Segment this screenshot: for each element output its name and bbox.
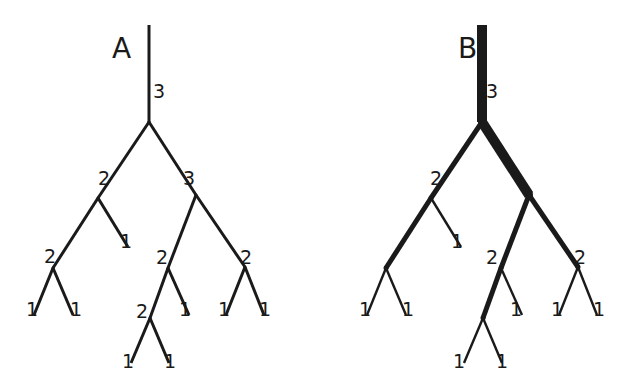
edge-label: 1 [359, 298, 371, 320]
tree-edge [529, 195, 578, 267]
edge-label: 1 [402, 298, 414, 320]
edge-label: 1 [593, 298, 605, 320]
tree-edge [196, 195, 245, 267]
tree-title: A [112, 32, 131, 65]
edge-label: 2 [136, 300, 148, 322]
tree-edge [386, 198, 431, 268]
tree-edge [150, 268, 168, 318]
edge-label: 2 [574, 246, 586, 268]
edge-label: 2 [156, 246, 168, 268]
tree-edge [482, 122, 529, 195]
edge-label: 1 [164, 350, 176, 372]
edge-label: 1 [122, 350, 134, 372]
edge-label: 1 [70, 298, 82, 320]
edge-label: 1 [451, 230, 463, 252]
edge-label: 2 [44, 245, 56, 267]
tree-title: B [458, 32, 477, 65]
tree-edge [501, 195, 529, 268]
edge-label: 1 [26, 298, 38, 320]
edge-label: 1 [551, 298, 563, 320]
edge-label: 1 [120, 230, 132, 252]
tree-edge [464, 318, 483, 363]
tree-b: 321112211111B [359, 25, 605, 372]
edge-label: 2 [240, 246, 252, 268]
edge-label: 1 [218, 298, 230, 320]
edge-label: 1 [510, 298, 522, 320]
tree-edge [53, 198, 98, 268]
edge-label: 2 [430, 167, 442, 189]
edge-label: 2 [98, 167, 110, 189]
diagram-canvas: 323211122211111A321112211111B [0, 0, 623, 380]
edge-label: 2 [486, 246, 498, 268]
tree-edge [168, 195, 196, 268]
tree-a: 323211122211111A [26, 25, 271, 372]
edge-label: 1 [453, 350, 465, 372]
edge-label: 3 [183, 167, 195, 189]
edge-label: 1 [259, 298, 271, 320]
tree-edge [483, 268, 501, 318]
edge-label: 1 [496, 350, 508, 372]
edge-label: 3 [153, 80, 165, 102]
edge-label: 3 [486, 80, 498, 102]
edge-label: 1 [179, 298, 191, 320]
